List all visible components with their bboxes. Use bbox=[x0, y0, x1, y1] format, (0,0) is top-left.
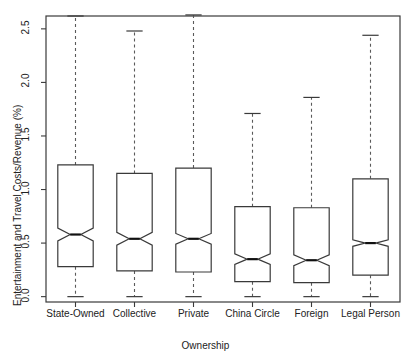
y-axis-tick-label: 0.0 bbox=[20, 282, 31, 308]
box bbox=[294, 208, 329, 283]
y-axis-tick-label: 0.5 bbox=[20, 229, 31, 255]
boxplot-figure: Entertainment and Travel Costs/Revenue (… bbox=[0, 0, 411, 360]
x-axis-tick-labels: State-OwnedCollectivePrivateChina Circle… bbox=[0, 308, 411, 324]
box bbox=[353, 179, 388, 275]
x-axis-tick-label: Legal Person bbox=[341, 308, 400, 319]
x-axis-tick-label: Foreign bbox=[295, 308, 329, 319]
x-axis-title: Ownership bbox=[0, 340, 411, 351]
x-axis-tick-label: Collective bbox=[113, 308, 156, 319]
box bbox=[176, 168, 211, 272]
x-axis-tick-label: China Circle bbox=[225, 308, 279, 319]
box bbox=[235, 207, 270, 282]
y-axis-tick-label: 2.0 bbox=[20, 68, 31, 94]
plot-canvas bbox=[0, 0, 411, 360]
plot-frame bbox=[46, 16, 400, 302]
y-axis-tick-labels: 0.00.51.01.52.02.5 bbox=[0, 0, 46, 330]
box bbox=[58, 165, 93, 267]
box bbox=[117, 173, 152, 270]
y-axis-tick-label: 1.0 bbox=[20, 175, 31, 201]
y-axis-tick-label: 1.5 bbox=[20, 121, 31, 147]
y-axis-tick-label: 2.5 bbox=[20, 14, 31, 40]
x-axis-tick-label: Private bbox=[178, 308, 209, 319]
x-axis-tick-label: State-Owned bbox=[46, 308, 104, 319]
